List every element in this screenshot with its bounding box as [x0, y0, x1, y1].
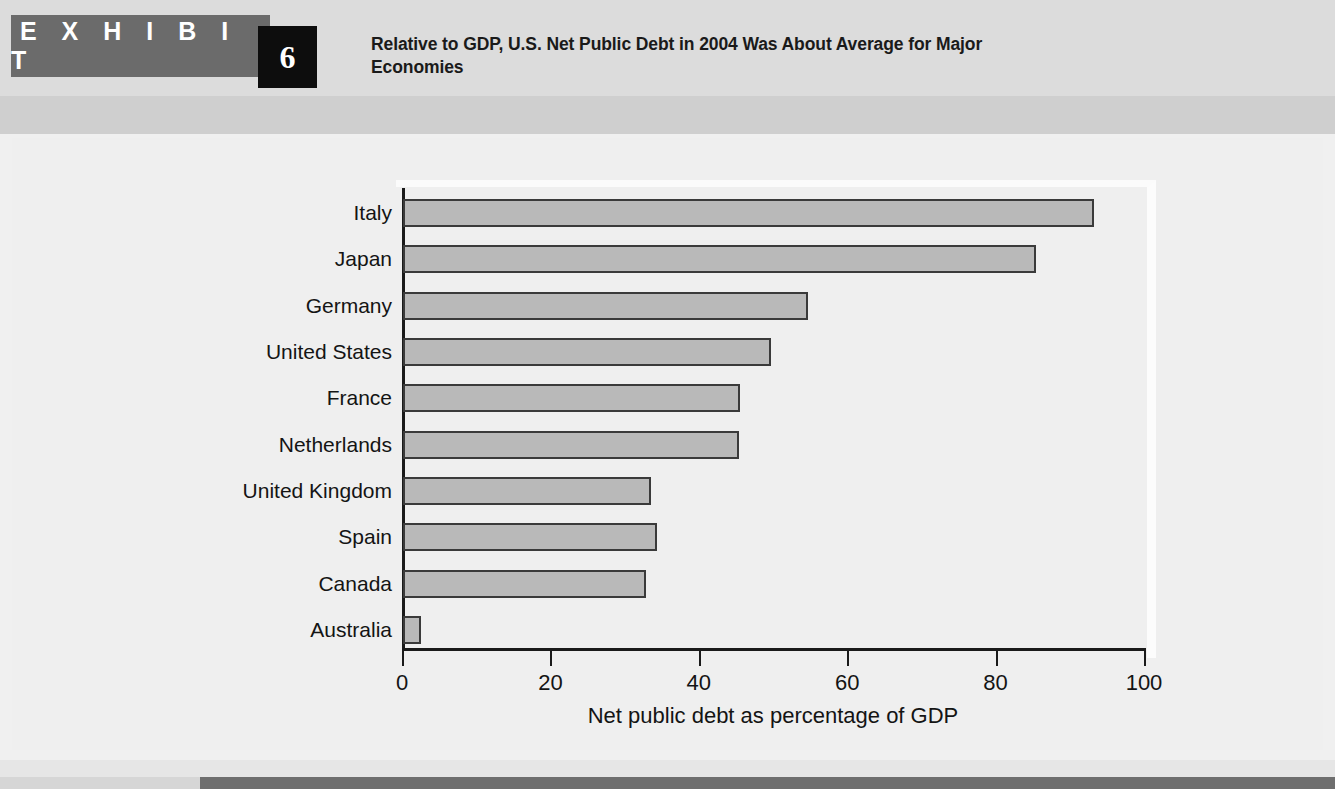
x-tick-label-20: 20	[538, 670, 562, 696]
y-tick-label-japan: Japan	[92, 247, 392, 271]
bar-spain	[403, 523, 657, 551]
y-tick-label-united-kingdom: United Kingdom	[92, 479, 392, 503]
bar-united-states	[403, 338, 771, 366]
header-background-lower	[0, 96, 1335, 134]
y-tick-label-italy: Italy	[92, 201, 392, 225]
x-tick-0	[402, 651, 404, 666]
y-tick-label-netherlands: Netherlands	[92, 433, 392, 457]
bar-canada	[403, 570, 646, 598]
x-axis-line	[402, 648, 1146, 651]
y-tick-label-germany: Germany	[92, 294, 392, 318]
x-tick-80	[996, 651, 998, 666]
plot-area: 020406080100	[402, 188, 1144, 651]
bar-netherlands	[403, 431, 739, 459]
bar-japan	[403, 245, 1036, 273]
bar-italy	[403, 199, 1094, 227]
x-tick-label-40: 40	[687, 670, 711, 696]
x-tick-label-60: 60	[835, 670, 859, 696]
exhibit-label: E X H I B I T	[11, 15, 270, 77]
x-tick-100	[1144, 651, 1146, 666]
footer-background	[0, 760, 1335, 778]
y-tick-label-australia: Australia	[92, 618, 392, 642]
y-tick-label-spain: Spain	[92, 525, 392, 549]
x-tick-label-100: 100	[1126, 670, 1163, 696]
x-tick-label-80: 80	[983, 670, 1007, 696]
y-tick-label-united-states: United States	[92, 340, 392, 364]
exhibit-page: E X H I B I T 6 Relative to GDP, U.S. Ne…	[0, 0, 1335, 798]
bar-france	[403, 384, 740, 412]
exhibit-number: 6	[258, 26, 317, 88]
y-axis-category-labels: ItalyJapanGermanyUnited StatesFranceNeth…	[92, 188, 392, 651]
y-tick-label-france: France	[92, 386, 392, 410]
bar-australia	[403, 616, 421, 644]
y-tick-label-canada: Canada	[92, 572, 392, 596]
footer-rule	[200, 777, 1335, 789]
page-edge	[0, 789, 1335, 798]
bar-united-kingdom	[403, 477, 651, 505]
x-axis-title: Net public debt as percentage of GDP	[402, 703, 1144, 729]
x-tick-40	[699, 651, 701, 666]
bar-germany	[403, 292, 808, 320]
footer-left-strip	[0, 777, 200, 789]
x-tick-20	[550, 651, 552, 666]
x-tick-60	[847, 651, 849, 666]
exhibit-title: Relative to GDP, U.S. Net Public Debt in…	[371, 33, 1071, 80]
x-tick-label-0: 0	[396, 670, 408, 696]
